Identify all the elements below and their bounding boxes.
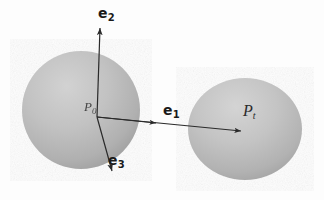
vector-label-e3-sub: 3 [118,159,125,170]
figure-svg [0,0,324,200]
vector-label-e1-sub: 1 [173,109,180,120]
vector-label-e2-base: e [98,5,108,21]
vector-label-e3-base: e [108,152,118,168]
vector-label-e3: e3 [108,153,125,170]
left-sphere [22,51,140,169]
right-sphere [188,78,302,180]
point-label-pt-sub: t [253,110,256,121]
vector-label-e2-sub: 2 [108,12,115,23]
point-label-pt: Pt [243,103,256,121]
vector-label-e1-base: e [163,102,173,118]
figure-canvas: e2 e1 e3 Pt P0 [0,0,324,200]
point-label-origin-sub: 0 [92,106,97,116]
vector-label-e1: e1 [163,103,180,120]
point-label-origin: P0 [84,100,96,116]
vector-label-e2: e2 [98,6,115,23]
point-label-origin-base: P [84,99,92,114]
point-label-pt-base: P [243,102,253,119]
